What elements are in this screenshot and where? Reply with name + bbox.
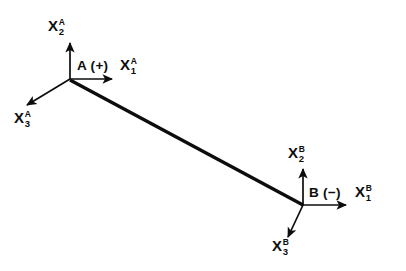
axis-label-x1-a: XA1 xyxy=(120,57,137,76)
origin-label-a: A (+) xyxy=(77,59,108,73)
axis-label-x2-a-subscript: 2 xyxy=(59,27,64,37)
axis-label-x2-a-base: X xyxy=(48,17,58,34)
axis-label-x3-a: XA3 xyxy=(14,110,31,129)
axis-label-x3-b-superscript: B xyxy=(283,238,289,247)
vector-a-to-b xyxy=(70,80,303,205)
axis-label-x3-a-subscript: 3 xyxy=(25,119,30,129)
axis-label-x3-a-superscript: A xyxy=(25,110,31,119)
axis-label-x1-b-subscript: 1 xyxy=(366,193,371,203)
axis-label-x2-a: XA2 xyxy=(48,18,65,37)
axis-label-x1-a-superscript: A xyxy=(131,57,137,66)
axis-label-x2-b: XB2 xyxy=(288,145,305,164)
axis-label-x1-b: XB1 xyxy=(355,184,372,203)
axis-x3-b-arrow xyxy=(288,205,303,237)
axis-label-x3-b-subscript: 3 xyxy=(283,247,288,257)
origin-label-b: B (−) xyxy=(309,186,341,200)
diagram-canvas xyxy=(0,0,406,271)
axis-label-x2-a-superscript: A xyxy=(59,18,65,27)
axis-label-x2-b-subscript: 2 xyxy=(299,154,304,164)
axis-label-x3-b: XB3 xyxy=(272,238,289,257)
axis-label-x2-b-base: X xyxy=(288,144,298,161)
axis-label-x2-b-superscript: B xyxy=(299,145,305,154)
axis-label-x1-a-base: X xyxy=(120,56,130,73)
axis-label-x3-b-base: X xyxy=(272,237,282,254)
vector-a-to-b-arrowhead xyxy=(132,113,166,132)
coordinate-frames-diagram: XA2 XA1 XA3 A (+) XB2 XB1 XB3 B (−) xyxy=(0,0,406,271)
vector-a-to-b-shaft xyxy=(70,80,303,205)
axis-x3-a-arrow xyxy=(27,79,70,105)
axis-label-x1-b-superscript: B xyxy=(366,184,372,193)
axis-label-x3-a-base: X xyxy=(14,109,24,126)
axis-label-x1-a-subscript: 1 xyxy=(131,66,136,76)
axis-label-x1-b-base: X xyxy=(355,183,365,200)
